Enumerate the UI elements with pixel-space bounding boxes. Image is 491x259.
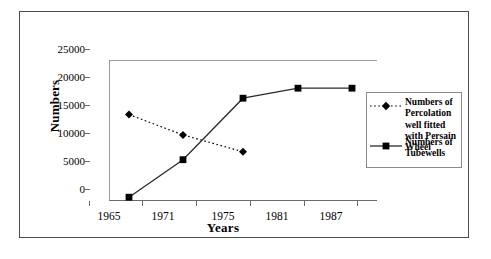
x-tick-mark-3: [250, 201, 251, 206]
y-tick-label-5000: 5000: [36, 156, 85, 167]
y-tick-mark-25000: [85, 49, 90, 50]
chart-frame: Numbers 25000 20000 15000 10000 5000 0: [19, 11, 469, 238]
x-tick-mark-0: [89, 201, 90, 206]
y-tick-mark-0: [85, 189, 90, 190]
y-tick-label-20000: 20000: [36, 72, 85, 83]
y-tick-label-0: 0: [36, 184, 85, 195]
legend-label-tubewells: Numbers of Tubewells: [405, 137, 463, 160]
series-tubewells: [126, 85, 356, 201]
series-canvas: [110, 61, 378, 202]
x-axis-title: Years: [89, 220, 357, 236]
y-tick-label-15000: 15000: [36, 100, 85, 111]
series-percolation-wells: [125, 111, 247, 156]
y-tick-label-10000: 10000: [36, 128, 85, 139]
legend-marker-square-solid-icon: [370, 138, 402, 150]
chart-screenshot: Numbers 25000 20000 15000 10000 5000 0: [0, 0, 491, 259]
x-tick-mark-1: [142, 201, 143, 206]
x-tick-mark-5: [357, 201, 358, 206]
y-tick-label-25000: 25000: [36, 44, 85, 55]
legend-marker-diamond-dotted-icon: [370, 98, 402, 110]
y-tick-mark-5000: [85, 161, 90, 162]
x-tick-mark-2: [196, 201, 197, 206]
x-tick-mark-4: [304, 201, 305, 206]
plot-area: [109, 60, 377, 201]
chart-legend: Numbers of Percolation well fitted with …: [366, 92, 462, 168]
y-tick-mark-20000: [85, 77, 90, 78]
y-tick-mark-15000: [85, 105, 90, 106]
y-tick-mark-10000: [85, 133, 90, 134]
